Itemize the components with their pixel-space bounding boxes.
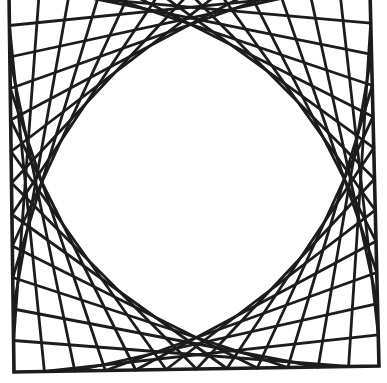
string-art-canvas [0, 0, 387, 383]
envelope-line-top-right [190, 0, 375, 179]
envelope-lines [9, 0, 378, 371]
string-art-figure [0, 0, 387, 383]
envelope-line-top-left [12, 0, 190, 183]
envelope-line-bottom-right [197, 179, 375, 369]
